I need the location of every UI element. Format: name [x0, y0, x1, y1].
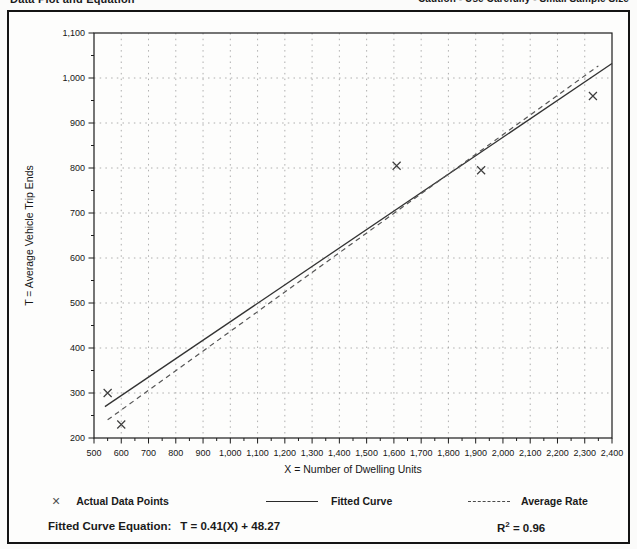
chart-legend: × Actual Data Points Fitted Curve Averag…	[0, 491, 637, 511]
svg-text:1,800: 1,800	[437, 448, 460, 458]
svg-text:1,500: 1,500	[355, 448, 378, 458]
y-axis-title: T = Average Vehicle Trip Ends	[23, 165, 35, 306]
r2-rest: = 0.96	[510, 522, 546, 534]
dashed-line-icon	[468, 501, 510, 502]
trip-generation-chart: 5006007008009001,0001,1001,2001,3001,400…	[0, 0, 637, 549]
svg-text:1,700: 1,700	[410, 448, 433, 458]
plot-gridlines	[94, 33, 612, 438]
x-marker-icon: ×	[52, 496, 60, 506]
fitted-curve-equation: Fitted Curve Equation:T = 0.41(X) + 48.2…	[48, 520, 280, 532]
equation-label: Fitted Curve Equation:	[48, 520, 171, 532]
legend-item-average-rate: Average Rate	[468, 491, 588, 511]
data-point-marker	[393, 162, 401, 170]
svg-text:1,900: 1,900	[464, 448, 487, 458]
trend-lines	[105, 63, 612, 419]
r-squared-value: R2 = 0.96	[497, 520, 545, 534]
legend-item-fitted-curve: Fitted Curve	[266, 491, 392, 511]
svg-text:600: 600	[70, 253, 85, 263]
svg-text:900: 900	[70, 118, 85, 128]
fitted-curve-line	[105, 63, 612, 406]
svg-text:2,100: 2,100	[519, 448, 542, 458]
svg-text:2,200: 2,200	[546, 448, 569, 458]
svg-text:1,100: 1,100	[62, 28, 85, 38]
svg-text:2,000: 2,000	[492, 448, 515, 458]
svg-text:700: 700	[141, 448, 156, 458]
svg-text:200: 200	[70, 433, 85, 443]
data-point-marker	[477, 166, 485, 174]
legend-item-actual-data-points: × Actual Data Points	[52, 491, 169, 511]
svg-text:500: 500	[86, 448, 101, 458]
data-point-marker	[589, 92, 597, 100]
legend-label-actual-data-points: Actual Data Points	[76, 495, 169, 507]
svg-text:600: 600	[114, 448, 129, 458]
equation-value: T = 0.41(X) + 48.27	[180, 520, 280, 532]
svg-text:1,100: 1,100	[246, 448, 269, 458]
svg-text:500: 500	[70, 298, 85, 308]
svg-text:1,200: 1,200	[274, 448, 297, 458]
report-page: Data Plot and Equation Caution - Use Car…	[0, 0, 637, 549]
svg-text:800: 800	[168, 448, 183, 458]
average-rate-line	[108, 66, 599, 420]
x-axis-title: X = Number of Dwelling Units	[284, 463, 421, 475]
plot-border	[94, 33, 612, 438]
axis-ticks	[89, 33, 613, 444]
equation-row: Fitted Curve Equation:T = 0.41(X) + 48.2…	[0, 520, 637, 538]
svg-text:300: 300	[70, 388, 85, 398]
svg-text:900: 900	[196, 448, 211, 458]
data-point-marker	[104, 389, 112, 397]
svg-text:800: 800	[70, 163, 85, 173]
svg-text:1,000: 1,000	[219, 448, 242, 458]
svg-text:2,300: 2,300	[573, 448, 596, 458]
svg-text:1,600: 1,600	[383, 448, 406, 458]
svg-text:1,300: 1,300	[301, 448, 324, 458]
svg-text:2,400: 2,400	[601, 448, 624, 458]
data-points	[104, 92, 597, 429]
svg-text:400: 400	[70, 343, 85, 353]
legend-label-average-rate: Average Rate	[521, 495, 588, 507]
legend-label-fitted-curve: Fitted Curve	[331, 495, 392, 507]
solid-line-icon	[266, 501, 318, 502]
svg-text:1,400: 1,400	[328, 448, 351, 458]
axis-tick-labels: 5006007008009001,0001,1001,2001,3001,400…	[62, 28, 623, 458]
svg-text:1,000: 1,000	[62, 73, 85, 83]
svg-text:700: 700	[70, 208, 85, 218]
